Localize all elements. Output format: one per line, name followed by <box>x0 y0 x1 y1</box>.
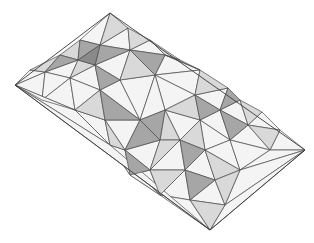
terrain-figure: Low-poly faceted terrain (isometric wire… <box>0 0 314 243</box>
lowpoly-terrain-svg <box>0 0 314 243</box>
terrain-faces <box>15 13 305 230</box>
